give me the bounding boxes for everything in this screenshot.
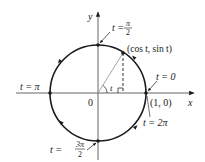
svg-text:π: π <box>126 19 131 28</box>
label-t-pi-over-2: t = π 2 <box>100 19 132 43</box>
label-t-3pi-over-2: t = 3π 2 <box>50 140 96 159</box>
angle-arc <box>103 86 107 94</box>
svg-text:t = 0: t = 0 <box>156 71 176 82</box>
y-axis-label: y <box>87 11 93 22</box>
coord-label-1-0: (1, 0) <box>150 97 172 109</box>
svg-text:t =: t = <box>50 144 62 155</box>
unit-circle-diagram: x y 0 t (cos t, sin t) t = π 2 t = 0 ( <box>0 0 205 162</box>
point-label: (cos t, sin t) <box>127 44 172 55</box>
label-t-0: t = 0 <box>148 71 176 91</box>
origin-label: 0 <box>88 97 93 108</box>
angle-label: t <box>110 83 113 93</box>
svg-text:2: 2 <box>78 150 82 159</box>
label-t-pi: t = π <box>20 81 41 92</box>
svg-text:t = π: t = π <box>20 81 41 92</box>
point-left <box>48 91 52 95</box>
svg-text:t = 2π: t = 2π <box>143 117 169 128</box>
point-top <box>96 43 100 47</box>
svg-text:2: 2 <box>126 28 130 37</box>
x-axis-label: x <box>187 97 193 108</box>
point-bottom <box>96 139 100 143</box>
point-cos-sin <box>121 51 125 55</box>
svg-text:t =: t = <box>112 22 124 33</box>
point-right <box>144 91 148 95</box>
svg-text:3π: 3π <box>75 140 85 149</box>
right-angle-mark <box>118 88 123 93</box>
